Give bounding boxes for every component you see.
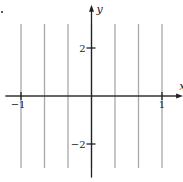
- y-axis-arrow-icon: [89, 5, 94, 12]
- corner-dot: [1, 11, 3, 13]
- y-tick-label-1: −2: [71, 139, 86, 150]
- x-axis-label: x: [179, 80, 183, 93]
- y-tick-label-0: 2: [79, 43, 85, 54]
- x-tick-label-1: 1: [159, 99, 165, 110]
- chart: x y −112−2: [0, 0, 183, 182]
- x-tick-label-0: −1: [11, 99, 26, 110]
- x-axis-arrow-icon: [176, 94, 183, 99]
- y-axis-label: y: [96, 3, 104, 16]
